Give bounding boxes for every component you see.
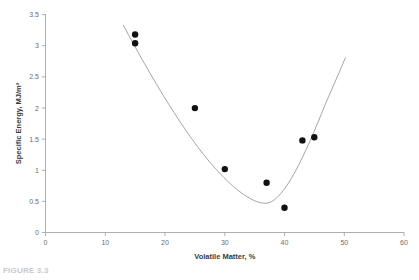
- data-point: [281, 205, 287, 211]
- y-tick-label: 2.5: [29, 73, 39, 80]
- y-tick-label: 0: [35, 229, 39, 236]
- x-axis-title: Volatile Matter, %: [194, 252, 255, 261]
- x-tick-label: 20: [161, 239, 169, 246]
- data-point: [311, 134, 317, 140]
- y-tick-label: 1: [35, 167, 39, 174]
- y-tick-label: 3: [35, 42, 39, 49]
- figure-container: 0 0.5 1 1.5 2 2.5 3 3.5 0 10 20 30 40 50: [0, 0, 419, 280]
- y-tick-label: 3.5: [29, 11, 39, 18]
- x-tick-label: 0: [44, 239, 48, 246]
- y-tick-label: 2: [35, 105, 39, 112]
- x-tick-label: 60: [400, 239, 408, 246]
- x-tick-label: 50: [340, 239, 348, 246]
- y-tick-label: 1.5: [29, 136, 39, 143]
- data-point: [132, 31, 138, 37]
- x-tick-label: 40: [281, 239, 289, 246]
- data-point: [299, 137, 305, 143]
- chart-background: [0, 0, 419, 280]
- y-tick-label: 0.5: [29, 198, 39, 205]
- y-axis-title: Specific Energy, MJ/m³: [14, 82, 23, 164]
- x-tick-label: 30: [221, 239, 229, 246]
- data-point: [132, 40, 138, 46]
- data-point: [192, 105, 198, 111]
- figure-caption: FIGURE 3.3: [3, 266, 49, 275]
- specific-energy-vs-volatile-matter-chart: 0 0.5 1 1.5 2 2.5 3 3.5 0 10 20 30 40 50: [0, 0, 419, 280]
- x-tick-label: 10: [101, 239, 109, 246]
- data-point: [263, 180, 269, 186]
- data-point: [222, 166, 228, 172]
